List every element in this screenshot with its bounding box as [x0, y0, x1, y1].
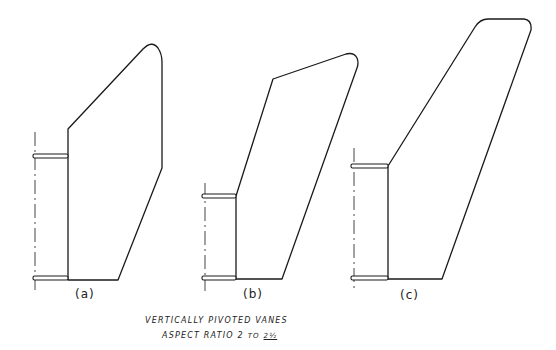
hinge-upper-b — [202, 194, 236, 198]
hinge-upper-a — [33, 154, 68, 158]
vane-c-outline — [388, 19, 531, 279]
vane-b-outline — [236, 54, 358, 280]
vane-a-label: (a) — [75, 287, 95, 301]
caption-title: VERTICALLY PIVOTED VANES — [145, 316, 288, 325]
vane-c — [351, 19, 531, 290]
vane-c-label: (c) — [400, 288, 419, 302]
hinge-lower-b — [202, 276, 236, 280]
aspect-ratio-to: TO — [248, 332, 260, 340]
aspect-ratio-value: 2½ — [264, 332, 278, 340]
vane-b-label: (b) — [243, 287, 263, 301]
vane-a — [33, 44, 162, 290]
caption-aspect-ratio: ASPECT RATIO 2 TO 2½ — [162, 331, 277, 340]
hinge-lower-c — [351, 276, 388, 280]
hinge-lower-a — [33, 276, 68, 280]
hinge-upper-c — [351, 164, 388, 168]
vane-a-outline — [68, 44, 162, 280]
vane-b — [202, 54, 358, 292]
aspect-ratio-prefix: ASPECT RATIO 2 — [162, 331, 244, 340]
